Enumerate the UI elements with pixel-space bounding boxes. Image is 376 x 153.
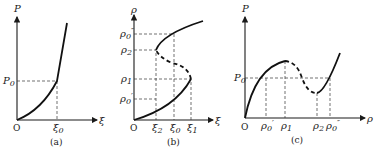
guide-lines [17,81,57,120]
y-axis-label: ρ [130,4,137,15]
panel-b: ρ ρ0″ ρ2 ρ1 ρ0′ O ξ ξ2 ξ0 ξ1 (b) [119,4,221,147]
panel-c: P P0 O ρ ρ0′ ρ1 ρ2 ρ0″ (c) [233,3,373,145]
upper-branch [156,21,203,50]
guide-rho1 [134,79,191,120]
caption-b: (b) [167,137,180,147]
x-axis-label: ρ [366,113,373,124]
upper-branch [317,53,340,93]
tick-rho0p: ρ0′ [119,91,133,106]
tick-xi0: ξ0 [53,122,64,135]
tick-xi2: ξ2 [152,122,163,135]
origin-label: O [241,122,248,132]
tick-rho1: ρ1 [120,73,132,86]
lower-branch [134,79,191,120]
rising-branch [245,61,285,118]
x-axis-label: ξ [99,115,105,126]
tick-P0: P0 [233,72,246,85]
unstable-branch [285,61,317,93]
figure: P P0 O ξ ξ0 (a) ρ ρ0″ ρ2 ρ1 ρ0′ O ξ ξ2 ξ… [0,0,376,153]
tick-rho1: ρ1 [280,120,292,133]
panel-a: P P0 O ξ ξ0 (a) [2,3,105,147]
tick-xi0: ξ0 [170,122,181,135]
tick-xi1: ξ1 [187,122,198,135]
y-axis-label: P [13,3,21,14]
unstable-branch [156,50,191,79]
origin-label: O [13,123,20,133]
x-axis-label: ξ [215,115,221,126]
guide-rho2 [134,50,156,120]
caption-c: (c) [291,135,303,145]
origin-label: O [130,123,137,133]
caption-a: (a) [50,137,62,147]
guide-rho0pp [134,34,174,120]
tick-rho0p: ρ0′ [260,118,274,133]
tick-rho0pp: ρ0″ [325,118,340,133]
tick-rho0pp: ρ0″ [119,26,134,41]
curve [17,23,67,120]
tick-P0: P0 [2,75,15,88]
tick-rho2: ρ2 [120,44,132,57]
y-axis-label: P [241,3,249,14]
tick-rho2: ρ2 [312,120,324,133]
